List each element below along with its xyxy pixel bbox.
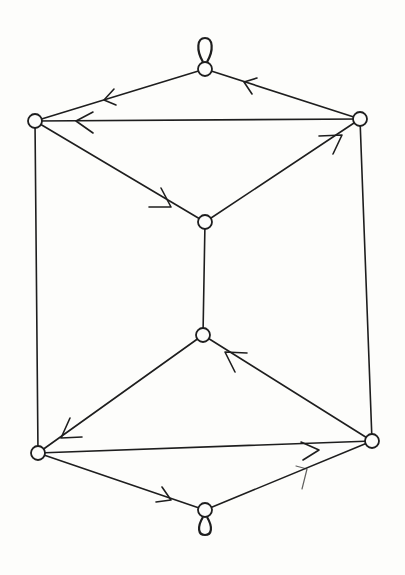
arrow-left-icon [244,78,257,94]
edge-lower-right-to-middle-lower [203,335,372,441]
node-lower-right [365,434,379,448]
arrowheads [61,78,342,502]
node-lower-left [31,446,45,460]
arrow-left-icon [76,112,93,133]
edge-lower-left-to-bottom [38,453,205,510]
node-upper-left [28,114,42,128]
self-loops [198,38,211,535]
edge-top-to-upper-left [35,69,205,121]
node-middle-upper [198,215,212,229]
node-middle-lower [196,328,210,342]
node-top [198,62,212,76]
loop-bottom-icon [199,517,211,535]
edge-upper-left-to-middle-upper [35,121,205,222]
edge-lower-left-to-lower-right [38,441,372,453]
edge-upper-right-lower-right [360,119,372,441]
arrow-right-icon [301,442,319,460]
edge-bottom-to-lower-right [205,441,372,510]
loop-top-icon [198,38,211,62]
edge-upper-left-lower-left [35,121,38,453]
node-bottom [198,503,212,517]
edge-upper-right-to-top [205,69,360,119]
edge-upper-right-to-upper-left [35,119,360,121]
graph-diagram [0,0,405,575]
node-upper-right [353,112,367,126]
edge-middle-upper-middle-lower [203,222,205,335]
